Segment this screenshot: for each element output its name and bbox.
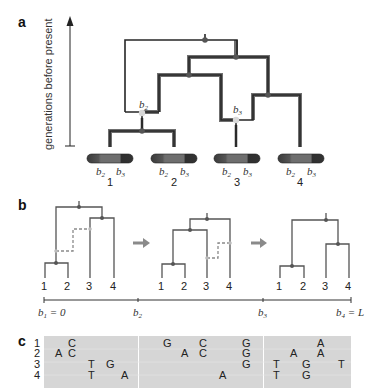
svg-text:b2: b2 [159, 165, 169, 179]
leaf-label: 2 [181, 280, 187, 292]
node [186, 72, 192, 78]
svg-text:b2: b2 [222, 165, 232, 179]
chromosome-4: b2 b3 4 [278, 154, 324, 188]
axis-tick-b2: b2 [133, 306, 143, 320]
recombination-node-b3 [233, 117, 239, 123]
base-G: G [163, 337, 172, 349]
chromosome-2: b2 b3 2 [151, 154, 197, 188]
ancestral-recombination-graph [110, 34, 300, 147]
svg-text:b3: b3 [116, 165, 126, 179]
axis-tick-b1: b1 = 0 [38, 306, 66, 320]
base-C: C [68, 347, 76, 359]
leaf-label: 4 [345, 280, 351, 292]
leaf-label: 1 [158, 280, 164, 292]
genome-position-axis [44, 297, 351, 303]
leaf-label: 3 [322, 280, 328, 292]
arrow-icon [251, 238, 267, 248]
leaf-label: 4 [110, 280, 116, 292]
node [233, 54, 239, 60]
base-G: G [242, 358, 251, 370]
breakpoint-label-b2: b2 [139, 98, 149, 112]
figure: a generations before present [0, 0, 375, 392]
chromosome-id: 1 [107, 176, 113, 188]
svg-text:b2: b2 [286, 165, 296, 179]
base-A: A [181, 347, 189, 359]
chromosome-id: 3 [234, 176, 240, 188]
base-A: A [290, 347, 298, 359]
node [139, 128, 145, 134]
base-A: A [317, 347, 325, 359]
chromosome-1: b2 b3 1 [87, 154, 133, 188]
leaf-label: 1 [276, 280, 282, 292]
chromosome-id: 2 [171, 176, 177, 188]
base-T: T [273, 369, 280, 381]
svg-text:b3: b3 [307, 165, 317, 179]
base-T: T [338, 358, 345, 370]
breakpoint-label-b3: b3 [233, 103, 243, 117]
base-G: G [302, 369, 311, 381]
base-A: A [121, 369, 129, 381]
base-A: A [55, 347, 63, 359]
svg-text:4: 4 [34, 369, 40, 381]
arrow-icon [133, 238, 150, 248]
axis-tick-b4: b4 = L [336, 306, 364, 320]
leaf-label: 3 [86, 280, 92, 292]
axis-label-generations: generations before present [42, 19, 54, 150]
base-C: C [199, 347, 207, 359]
axis-tick-b3: b3 [258, 306, 268, 320]
alignment-row-labels: 1 2 3 4 [34, 337, 40, 381]
svg-text:b2: b2 [96, 165, 106, 179]
panel-b-label: b [18, 197, 27, 213]
chromosome-id: 4 [297, 176, 303, 188]
root-node [202, 37, 208, 43]
local-tree-1 [45, 201, 114, 278]
panel-c-label: c [18, 333, 26, 349]
leaf-label: 2 [300, 280, 306, 292]
svg-text:b3: b3 [180, 165, 190, 179]
base-G: G [106, 358, 115, 370]
local-tree-3 [280, 213, 349, 278]
leaf-label: 3 [203, 280, 209, 292]
local-tree-2 [162, 213, 232, 278]
leaf-label: 4 [226, 280, 232, 292]
node [265, 92, 271, 98]
svg-text:b3: b3 [243, 165, 253, 179]
time-axis-arrow [65, 16, 75, 146]
chromosome-3: b2 b3 3 [214, 154, 260, 188]
base-A: A [219, 369, 227, 381]
base-T: T [88, 369, 95, 381]
leaf-label: 1 [41, 280, 47, 292]
leaf-label: 2 [64, 280, 70, 292]
panel-a-label: a [18, 14, 26, 30]
